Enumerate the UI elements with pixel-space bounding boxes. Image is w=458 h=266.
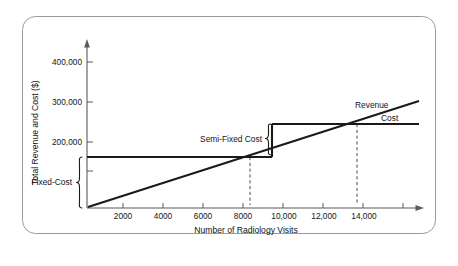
x-tick-label-8000: 8000 <box>234 211 253 221</box>
x-axis-title: Number of Radiology Visits <box>194 225 298 235</box>
y-tick-label-300000: 300,000 <box>52 97 82 107</box>
semi-fixed-cost-label: Semi-Fixed Cost <box>200 134 263 144</box>
revenue-series-label: Revenue <box>355 100 389 110</box>
x-tick-label-4000: 4000 <box>154 211 173 221</box>
y-tick-label-200000: 200,000 <box>52 137 82 147</box>
break-even-chart: 400,000 300,000 200,000 Total Revenue an… <box>0 0 458 266</box>
x-tick-label-14000: 14,000 <box>351 211 377 221</box>
y-tick-label-400000: 400,000 <box>52 57 82 67</box>
fixed-cost-label: Fixed-Cost <box>32 177 73 187</box>
x-tick-label-2000: 2000 <box>114 211 133 221</box>
y-axis-title: Total Revenue and Cost ($) <box>30 80 40 185</box>
x-tick-label-6000: 6000 <box>194 211 213 221</box>
x-tick-label-12000: 12,000 <box>311 211 337 221</box>
x-tick-label-10000: 10,000 <box>271 211 297 221</box>
cost-series-label: Cost <box>381 113 399 123</box>
figure-container: 400,000 300,000 200,000 Total Revenue an… <box>0 0 458 266</box>
